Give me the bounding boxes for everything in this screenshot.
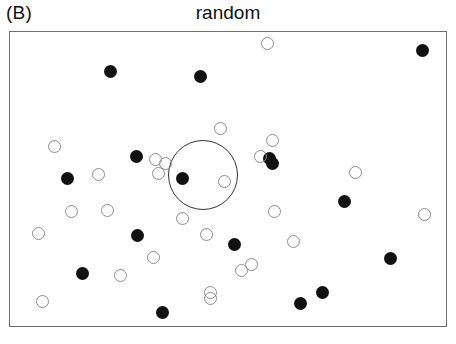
data-point-filled-4 xyxy=(130,150,143,163)
data-point-filled-11 xyxy=(76,267,89,280)
data-point-open-20 xyxy=(114,269,127,282)
data-point-open-13 xyxy=(101,204,114,217)
data-point-open-16 xyxy=(287,235,300,248)
data-point-open-12 xyxy=(65,205,78,218)
data-point-filled-8 xyxy=(338,195,351,208)
data-point-open-10 xyxy=(268,205,281,218)
data-point-filled-2 xyxy=(416,44,429,57)
data-point-filled-3 xyxy=(61,172,74,185)
plot-frame xyxy=(9,31,447,327)
data-point-filled-5 xyxy=(176,172,189,185)
data-point-filled-7 xyxy=(266,157,279,170)
data-point-filled-13 xyxy=(294,297,307,310)
data-point-open-7 xyxy=(254,150,267,163)
data-point-filled-10 xyxy=(228,238,241,251)
data-point-open-24 xyxy=(36,295,49,308)
data-point-open-2 xyxy=(48,140,61,153)
data-point-filled-14 xyxy=(384,252,397,265)
data-point-open-11 xyxy=(349,166,362,179)
figure-panel: (B) random xyxy=(0,0,456,344)
data-point-filled-0 xyxy=(104,65,117,78)
data-point-open-14 xyxy=(32,227,45,240)
chart-title: random xyxy=(0,2,456,24)
data-point-filled-1 xyxy=(194,70,207,83)
data-point-open-3 xyxy=(92,168,105,181)
data-point-filled-12 xyxy=(156,306,169,319)
data-point-open-8 xyxy=(218,175,231,188)
data-point-open-0 xyxy=(261,37,274,50)
data-point-open-6 xyxy=(152,167,165,180)
scatter-plot-area xyxy=(10,32,446,326)
data-point-filled-9 xyxy=(131,229,144,242)
data-point-open-18 xyxy=(200,228,213,241)
data-point-open-19 xyxy=(147,251,160,264)
data-point-open-25 xyxy=(204,286,217,299)
data-point-open-15 xyxy=(176,212,189,225)
data-point-open-9 xyxy=(266,134,279,147)
data-point-open-17 xyxy=(418,208,431,221)
data-point-filled-15 xyxy=(316,286,329,299)
data-point-open-23 xyxy=(245,258,258,271)
data-point-open-1 xyxy=(214,122,227,135)
